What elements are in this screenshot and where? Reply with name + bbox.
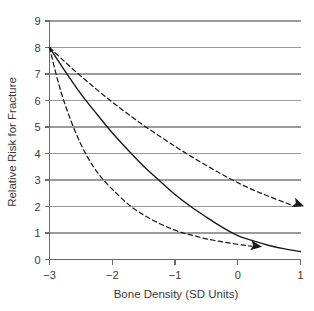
curve-arrowheads (250, 198, 306, 252)
curve-solid-1 (50, 48, 301, 252)
y-axis-title: Relative Risk for Fracture (6, 77, 18, 207)
y-tick-label: 4 (34, 148, 40, 160)
chart-container: 0123456789 −3−2−101 Relative Risk for Fr… (0, 0, 314, 311)
x-axis-ticks (50, 260, 301, 265)
x-tick-label: −1 (169, 269, 182, 281)
y-tick-label: 9 (34, 15, 40, 27)
x-tick-label: −2 (106, 269, 119, 281)
x-tick-label: 0 (235, 269, 241, 281)
x-tick-label: 1 (297, 269, 303, 281)
y-tick-label: 7 (34, 68, 40, 80)
y-tick-label: 1 (34, 227, 40, 239)
x-axis-tick-labels: −3−2−101 (43, 269, 303, 281)
y-tick-label: 3 (34, 174, 40, 186)
data-curves (50, 48, 301, 252)
x-tick-label: −3 (43, 269, 56, 281)
y-tick-label: 5 (34, 121, 40, 133)
y-tick-label: 6 (34, 95, 40, 107)
relative-risk-fracture-chart: 0123456789 −3−2−101 Relative Risk for Fr… (0, 0, 314, 311)
y-tick-label: 2 (34, 201, 40, 213)
gridlines (50, 21, 301, 260)
y-tick-label: 8 (34, 42, 40, 54)
y-tick-label: 0 (34, 254, 40, 266)
y-axis-ticks (45, 21, 50, 260)
curve-dashed-2 (50, 48, 253, 247)
arrowhead-icon (292, 198, 306, 211)
y-axis-tick-labels: 0123456789 (34, 15, 40, 266)
x-axis-title: Bone Density (SD Units) (114, 288, 239, 300)
